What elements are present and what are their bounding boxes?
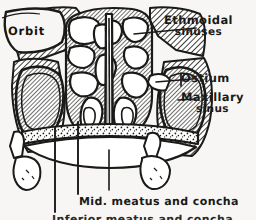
tooth-left-root: [10, 131, 24, 158]
label-maxillary-line2: sinus: [181, 104, 244, 115]
tooth-left-crown: [14, 156, 41, 190]
tooth-right-crown: [140, 156, 170, 189]
label-ethmoidal-line2: sinuses: [164, 27, 233, 38]
ethmoid-cell-r1: [123, 18, 148, 42]
label-ethmoidal-sinuses: Ethmoidal sinuses: [164, 15, 233, 37]
label-bottom-cutoff: Inferior meatus and concha: [52, 214, 233, 220]
ethmoid-cell-l3: [70, 72, 98, 96]
label-ethmoidal-line1: Ethmoidal: [164, 13, 233, 27]
tooth-right-root: [144, 133, 160, 158]
palate-arch: [24, 137, 196, 168]
ethmoid-cell-l2: [68, 46, 95, 68]
ethmoid-cell-r2: [124, 46, 148, 68]
label-ostium: Ostium: [181, 73, 230, 85]
label-maxillary-line1: Maxillary: [181, 90, 244, 104]
label-maxillary-sinus: Maxillary sinus: [181, 92, 244, 114]
label-mid-meatus-and-concha: Mid. meatus and concha: [79, 196, 239, 207]
label-orbit: Orbit: [8, 26, 45, 38]
anatomical-figure: Orbit Ethmoidal sinuses Ostium Maxillary…: [0, 0, 256, 220]
hard-palate: [22, 124, 198, 168]
